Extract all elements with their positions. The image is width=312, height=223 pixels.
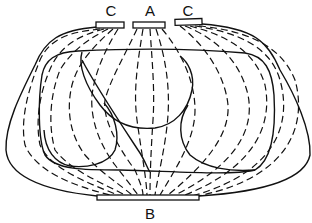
thorax-field-diagram: C A C B	[0, 0, 312, 223]
electrode-c-left	[96, 22, 124, 28]
label-electrode-a: A	[145, 3, 155, 18]
diagram-canvas	[0, 0, 312, 223]
electrode-c-right	[175, 19, 202, 26]
label-electrode-b: B	[145, 206, 155, 221]
inner-thorax-outline	[39, 49, 274, 173]
electrode-b	[97, 195, 199, 200]
label-electrode-c-left: C	[106, 3, 117, 18]
label-electrode-c-right: C	[183, 3, 194, 18]
field-line	[160, 29, 195, 195]
field-line	[150, 29, 154, 195]
right-lung-outline	[181, 105, 255, 170]
electrode-a	[133, 22, 165, 28]
field-line	[155, 29, 168, 195]
inner-divider	[82, 60, 150, 172]
